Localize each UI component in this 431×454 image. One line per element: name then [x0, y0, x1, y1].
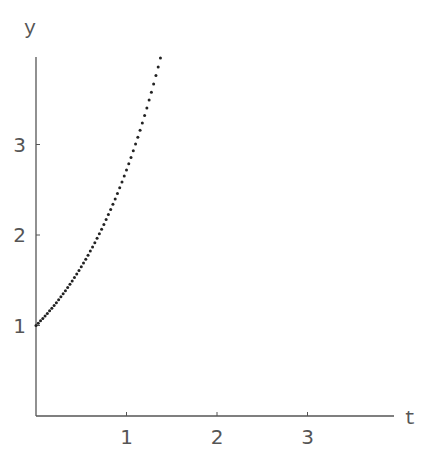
data-point: [39, 319, 42, 322]
x-tick-label: 3: [301, 425, 314, 449]
data-points: [35, 57, 162, 327]
data-point: [80, 265, 83, 268]
data-point: [57, 298, 60, 301]
data-point: [105, 218, 108, 221]
y-tick-label: 1: [13, 314, 26, 338]
data-point: [102, 223, 105, 226]
data-point: [35, 324, 38, 327]
data-point: [100, 228, 103, 231]
x-tick-label: 2: [211, 425, 224, 449]
data-point: [123, 175, 126, 178]
data-point: [59, 295, 62, 298]
data-point: [143, 114, 146, 117]
data-point: [75, 273, 78, 276]
data-point: [111, 203, 114, 206]
data-point: [96, 237, 99, 240]
tick-marks: [36, 145, 308, 417]
y-tick-label: 2: [13, 223, 26, 247]
data-point: [48, 309, 51, 312]
data-point: [157, 65, 160, 68]
data-point: [134, 143, 137, 146]
data-point: [116, 192, 119, 195]
data-point: [68, 283, 71, 286]
chart: 123123 t y: [0, 0, 431, 454]
data-point: [64, 289, 67, 292]
data-point: [73, 276, 76, 279]
data-point: [139, 129, 142, 132]
data-point: [98, 232, 101, 235]
data-point: [91, 245, 94, 248]
data-point: [130, 156, 133, 159]
data-point: [136, 136, 139, 139]
data-point: [87, 254, 90, 257]
data-point: [41, 317, 44, 320]
data-point: [37, 322, 40, 325]
data-point: [145, 106, 148, 109]
axes: [36, 57, 394, 416]
data-point: [159, 57, 162, 60]
data-point: [62, 292, 65, 295]
data-point: [93, 241, 96, 244]
data-point: [44, 314, 47, 317]
data-point: [107, 213, 110, 216]
data-point: [66, 286, 69, 289]
data-point: [46, 312, 49, 315]
data-point: [141, 121, 144, 124]
data-point: [114, 197, 117, 200]
data-point: [150, 91, 153, 94]
data-point: [84, 258, 87, 261]
data-point: [152, 82, 155, 85]
data-point: [53, 304, 56, 307]
y-axis-label: y: [24, 17, 36, 40]
data-point: [82, 262, 85, 265]
x-axis-label: t: [404, 407, 416, 430]
data-point: [50, 307, 53, 310]
data-point: [77, 269, 80, 272]
data-point: [132, 149, 135, 152]
y-tick-label: 3: [13, 133, 26, 157]
data-point: [127, 162, 130, 165]
data-point: [89, 250, 92, 253]
data-point: [148, 99, 151, 102]
data-point: [118, 186, 121, 189]
x-tick-label: 1: [120, 425, 133, 449]
data-point: [125, 168, 128, 171]
data-point: [55, 301, 58, 304]
data-point: [154, 74, 157, 77]
tick-labels: 123123: [13, 133, 314, 450]
data-point: [120, 180, 123, 183]
data-point: [71, 279, 74, 282]
data-point: [109, 208, 112, 211]
